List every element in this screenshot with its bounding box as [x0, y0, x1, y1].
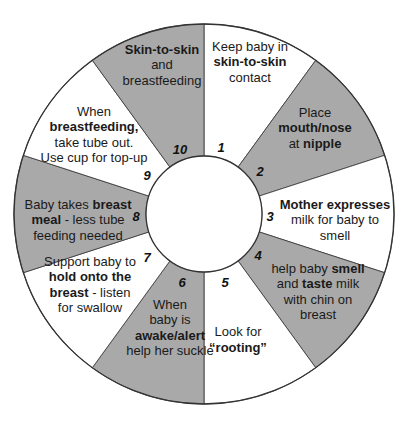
step-8-label: Baby takes breastmeal - less tubefeeding… [25, 197, 133, 243]
step-number-2: 2 [255, 164, 264, 179]
step-7-label: Support baby tohold onto thebreast - lis… [44, 254, 136, 316]
inner-circle-hub [146, 156, 262, 272]
step-number-4: 4 [253, 248, 262, 263]
step-number-3: 3 [266, 209, 274, 224]
step-number-1: 1 [217, 140, 224, 155]
breastfeeding-cycle-wheel: Keep baby inskin-to-skincontactPlacemout… [0, 0, 404, 424]
step-number-6: 6 [178, 275, 186, 290]
step-number-10: 10 [173, 142, 188, 157]
step-number-7: 7 [143, 250, 151, 265]
step-number-9: 9 [143, 168, 151, 183]
step-5-label: Look for“rooting” [209, 324, 267, 355]
step-number-8: 8 [132, 209, 140, 224]
step-number-5: 5 [221, 275, 229, 290]
